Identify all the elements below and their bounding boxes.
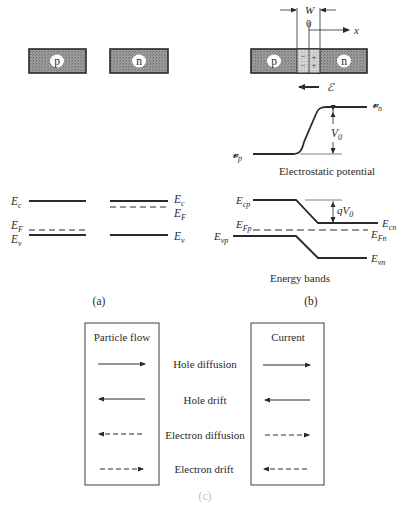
negative-charge-1: − <box>301 52 306 61</box>
caption-c: (c) <box>199 490 212 503</box>
pn-junction-block: p n − − + + <box>251 49 367 73</box>
current-box <box>251 323 324 485</box>
vp-label: 𝓿p <box>232 147 242 163</box>
particle-flow-header: Particle flow <box>94 331 151 343</box>
panel-a: p n Ec EF Ev Ec EF Ev (a) <box>10 49 186 308</box>
ecp-label: Ecp <box>235 194 250 209</box>
evp-label: Evp <box>213 230 228 245</box>
particle-flow-box <box>85 323 159 485</box>
qv0-label: qV0 <box>337 204 353 219</box>
conduction-band <box>253 200 378 223</box>
potential-caption: Electrostatic potential <box>279 165 375 177</box>
p-label-b: p <box>271 55 277 68</box>
negative-charge-2: − <box>301 61 306 70</box>
row-hole-drift: Hole drift <box>99 394 310 406</box>
row-electron-diffusion: Electron diffusion <box>99 429 309 441</box>
panel-b: W 0 x p n − − + + ℰ <box>213 4 396 308</box>
flow-current-table: Particle flow Current Hole diffusion Hol… <box>85 323 324 503</box>
v0-label: V0 <box>331 127 342 142</box>
svg-text:Electron diffusion: Electron diffusion <box>165 429 245 441</box>
p-label: p <box>54 55 60 68</box>
ef-label-p: EF <box>10 219 23 234</box>
ev-label-p: Ev <box>10 233 22 248</box>
p-side-bands: Ec EF Ev <box>10 195 86 248</box>
p-block: p <box>29 49 86 73</box>
current-header: Current <box>271 331 305 343</box>
caption-b: (b) <box>304 295 318 308</box>
field-label: ℰ <box>327 81 335 93</box>
svg-text:Hole drift: Hole drift <box>183 394 226 406</box>
row-electron-drift: Electron drift <box>100 463 307 475</box>
potential-curve <box>253 107 367 154</box>
n-block: n <box>110 49 168 73</box>
w-label: W <box>305 4 315 16</box>
svg-text:Hole diffusion: Hole diffusion <box>173 358 237 370</box>
n-side-bands: Ec EF Ev <box>110 193 186 245</box>
vn-label: 𝓿n <box>372 97 382 113</box>
svg-text:Electron drift: Electron drift <box>175 463 234 475</box>
n-label-b: n <box>341 55 347 67</box>
ec-label-n: Ec <box>173 193 185 208</box>
row-hole-diffusion: Hole diffusion <box>98 358 310 370</box>
valence-band <box>233 236 367 258</box>
origin-label: 0 <box>306 17 312 29</box>
efp-label: EFp <box>235 218 252 233</box>
width-dimension: W 0 x <box>280 4 359 48</box>
electrostatic-potential-plot: V0 𝓿n 𝓿p Electrostatic potential <box>232 97 382 177</box>
x-axis-label: x <box>353 24 359 36</box>
ef-label-n: EF <box>173 207 186 222</box>
electric-field: ℰ <box>299 81 335 93</box>
energy-bands-plot: qV0 Ecp Ecn EFp EFn Evp Evn Energy bands <box>213 194 396 284</box>
ev-label-n: Ev <box>173 230 185 245</box>
caption-a: (a) <box>93 295 106 308</box>
efn-label: EFn <box>370 228 387 243</box>
ecn-label: Ecn <box>381 217 396 232</box>
n-label: n <box>136 55 142 67</box>
ec-label-p: Ec <box>10 195 22 210</box>
bands-caption: Energy bands <box>270 272 330 284</box>
evn-label: Evn <box>370 252 385 267</box>
positive-charge-2: + <box>312 61 317 70</box>
